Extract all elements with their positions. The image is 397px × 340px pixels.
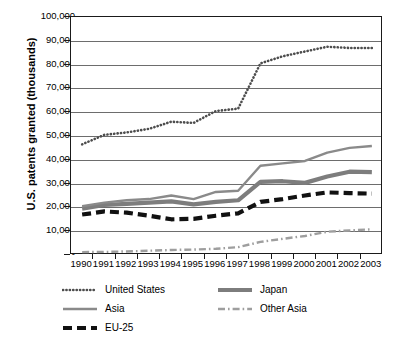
x-axis-tick-label: 1992: [115, 259, 136, 269]
x-axis-tick-label: 1995: [182, 259, 203, 269]
x-axis-tick-label: 2001: [316, 259, 337, 269]
x-axis-tick-label: 1996: [204, 259, 225, 269]
legend-item-eu-25[interactable]: EU-25: [62, 321, 133, 335]
legend-label: Japan: [260, 284, 287, 296]
series-group: [71, 17, 383, 255]
legend-swatch-icon: [62, 284, 98, 296]
x-axis-tick-label: 2000: [293, 259, 314, 269]
series-line-other-asia: [82, 229, 372, 252]
x-axis-tick-mark: [226, 254, 227, 259]
x-axis-tick-label: 1997: [227, 259, 248, 269]
x-axis-tick-mark: [137, 254, 138, 259]
x-axis-tick-mark: [159, 254, 160, 259]
legend-item-united-states[interactable]: United States: [62, 283, 165, 297]
legend-label: Other Asia: [260, 303, 307, 315]
x-axis-tick-mark: [315, 254, 316, 259]
x-axis-tick-label: 1993: [137, 259, 158, 269]
y-axis-tick-mark: [64, 254, 70, 255]
x-axis-tick-mark: [271, 254, 272, 259]
legend-swatch-icon: [62, 322, 98, 334]
x-axis-tick-mark: [337, 254, 338, 259]
x-axis-tick-label: 2002: [338, 259, 359, 269]
x-axis-tick-label: 2003: [360, 259, 381, 269]
x-axis-tick-mark: [204, 254, 205, 259]
legend-label: Asia: [105, 303, 124, 315]
legend-label: United States: [105, 284, 165, 296]
legend-item-asia[interactable]: Asia: [62, 302, 124, 316]
series-line-united-states: [82, 47, 372, 145]
legend-swatch-icon: [217, 284, 253, 296]
chart-legend: United StatesJapanAsiaOther AsiaEU-25: [62, 283, 362, 335]
legend-label: EU-25: [105, 322, 133, 334]
legend-item-japan[interactable]: Japan: [217, 283, 287, 297]
legend-swatch-icon: [62, 303, 98, 315]
x-axis-tick-mark: [293, 254, 294, 259]
legend-item-other-asia[interactable]: Other Asia: [217, 302, 307, 316]
x-axis-tick-mark: [115, 254, 116, 259]
x-axis-tick-mark: [248, 254, 249, 259]
x-axis-tick-label: 1994: [160, 259, 181, 269]
patents-line-chart: U.S. patents granted (thousands) 100,000…: [0, 0, 397, 340]
x-axis-tick-label: 1990: [71, 259, 92, 269]
x-axis-tick-label: 1999: [271, 259, 292, 269]
x-axis-tick-mark: [92, 254, 93, 259]
legend-swatch-icon: [217, 303, 253, 315]
plot-area: [70, 16, 382, 254]
x-axis-tick-label: 1998: [249, 259, 270, 269]
x-axis-tick-label: 1991: [93, 259, 114, 269]
x-axis-tick-mark: [360, 254, 361, 259]
x-axis-tick-mark: [181, 254, 182, 259]
